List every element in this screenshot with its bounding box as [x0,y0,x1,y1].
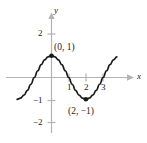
graph-figure: y x 2 −1 −2 1 2 3 (0, 1) (2, −1) [0,0,147,143]
x-tick-label-2: 2 [84,83,89,92]
y-tick-label-neg1: −1 [33,96,43,105]
x-tick-label-3: 3 [101,83,106,92]
y-axis-label: y [54,6,58,15]
y-axis [48,13,54,134]
y-tick-label-2: 2 [38,29,43,38]
x-axis-label: x [137,72,141,81]
minimum-point-label: (2, −1) [68,107,94,117]
maximum-point-dot [49,53,54,58]
y-tick-label-neg2: −2 [33,118,43,127]
plot-area [0,0,147,143]
minimum-point-dot [84,97,89,102]
x-tick-label-1: 1 [67,83,72,92]
maximum-point-label: (0, 1) [54,43,75,53]
